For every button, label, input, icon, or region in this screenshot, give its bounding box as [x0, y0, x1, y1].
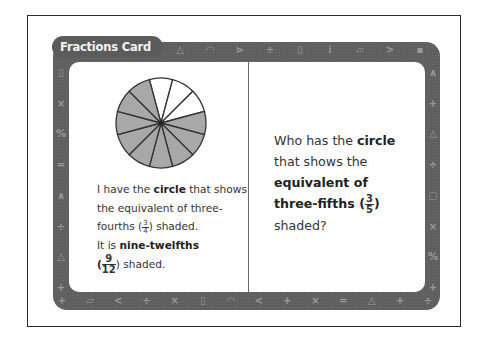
- border-symbol-icon: +: [426, 281, 440, 295]
- border-symbol-icon: =: [54, 158, 68, 172]
- border-symbol-icon: △: [54, 250, 68, 264]
- border-symbol-icon: ∧: [426, 66, 440, 80]
- border-symbol-icon: ▱: [83, 294, 97, 308]
- i-have-statement: I have the circle that shows the equival…: [97, 180, 247, 275]
- border-symbol-icon: ×: [54, 97, 68, 111]
- border-symbol-icon: ∧: [54, 189, 68, 203]
- fraction-three-fifths: 35: [365, 194, 374, 215]
- border-symbol-icon: ⋗: [233, 43, 247, 57]
- border-symbol-icon: ÷: [139, 294, 153, 308]
- border-symbol-icon: △: [426, 127, 440, 141]
- border-symbol-icon: ⁞: [323, 43, 337, 57]
- border-symbol-icon: △: [173, 43, 187, 57]
- border-symbol-icon: %: [54, 127, 68, 141]
- border-symbol-icon: +: [426, 97, 440, 111]
- border-symbol-icon: =: [337, 294, 351, 308]
- border-symbol-icon: +: [280, 294, 294, 308]
- border-symbol-icon: >: [383, 43, 397, 57]
- border-symbol-icon: ▯: [196, 294, 210, 308]
- border-symbol-icon: ×: [426, 220, 440, 234]
- border-symbol-icon: ▯: [293, 43, 307, 57]
- border-symbol-icon: △: [365, 294, 379, 308]
- card-panel: I have the circle that shows the equival…: [69, 62, 425, 292]
- border-symbol-icon: ▪: [413, 43, 427, 57]
- card-title-tab: Fractions Card: [52, 36, 163, 58]
- border-symbol-icon: ÷: [426, 158, 440, 172]
- border-symbol-icon: ÷: [263, 43, 277, 57]
- border-symbol-icon: ▯: [54, 66, 68, 80]
- who-has-question: Who has the circle that shows the equiva…: [274, 130, 414, 236]
- border-symbol-icon: ÷: [421, 294, 435, 308]
- border-symbol-icon: %: [426, 250, 440, 264]
- border-symbol-icon: ▢: [426, 189, 440, 203]
- border-symbol-icon: <: [252, 294, 266, 308]
- border-symbol-icon: ◠: [224, 294, 238, 308]
- border-symbol-icon: ÷: [54, 220, 68, 234]
- border-symbol-icon: ×: [168, 294, 182, 308]
- border-symbol-icon: +: [393, 294, 407, 308]
- border-symbol-icon: ◠: [203, 43, 217, 57]
- border-symbol-icon: ×: [308, 294, 322, 308]
- card-divider: [248, 62, 249, 292]
- pie-chart-nine-twelfths: [115, 77, 207, 169]
- border-symbol-icon: <: [111, 294, 125, 308]
- border-symbol-icon: ▱: [353, 43, 367, 57]
- border-symbol-icon: +: [55, 294, 69, 308]
- fraction-nine-twelfths: 912: [102, 254, 116, 275]
- border-symbol-icon: +: [54, 281, 68, 295]
